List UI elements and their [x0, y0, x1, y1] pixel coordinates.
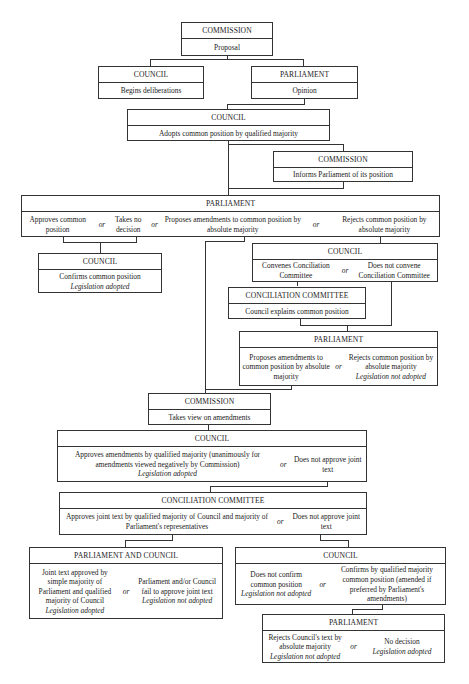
- node-parliament-second: PARLIAMENT Approves common position or T…: [21, 195, 440, 237]
- option-does-not-convene: Does not convene Conciliation Committee: [351, 261, 437, 280]
- result-not-adopted: Legislation not adopted: [238, 589, 314, 599]
- or-label: or: [305, 220, 328, 230]
- option-approves-amendments: Approves amendments by qualified majorit…: [75, 450, 260, 469]
- result-not-adopted: Legislation not adopted: [134, 596, 220, 606]
- node-title: PARLIAMENT: [240, 332, 437, 348]
- node-title: PARLIAMENT: [252, 67, 357, 83]
- node-body: Informs Parliament of its position: [274, 168, 412, 182]
- node-conciliation-joint: CONCILIATION COMMITTEE Approves joint te…: [59, 492, 367, 535]
- option-convenes: Convenes Conciliation Committee: [253, 261, 339, 280]
- option-does-not-confirm: Does not confirm common position: [250, 570, 302, 589]
- node-title: COUNCIL: [99, 67, 203, 83]
- or-label: or: [274, 517, 287, 527]
- node-title: COUNCIL: [58, 431, 366, 447]
- node-parliament-final: PARLIAMENT Rejects Council's text by abs…: [262, 614, 445, 663]
- option-does-not-approve: Does not approve joint text: [290, 455, 366, 474]
- option-proposes-amendments: Proposes amendments to common position b…: [161, 215, 305, 234]
- option-rejects-text: Rejects Council's text by absolute major…: [268, 633, 341, 652]
- node-council-confirms: COUNCIL Confirms common position Legisla…: [38, 253, 162, 293]
- node-body: Proposal: [182, 39, 272, 56]
- node-title: COMMISSION: [274, 152, 412, 168]
- node-title: COUNCIL: [253, 244, 437, 260]
- result-adopted: Legislation adopted: [60, 469, 275, 479]
- result-not-adopted: Legislation not adopted: [347, 372, 435, 382]
- or-label: or: [347, 642, 360, 652]
- option-no-decision: Takes no decision: [108, 215, 148, 234]
- node-title: COUNCIL: [39, 254, 161, 270]
- or-label: or: [339, 266, 352, 276]
- node-commission-view: COMMISSION Takes view on amendments: [148, 393, 271, 425]
- node-title: PARLIAMENT AND COUNCIL: [30, 548, 222, 564]
- option-no-decision: No decision: [384, 637, 420, 646]
- node-title: COUNCIL: [236, 548, 445, 564]
- result-adopted: Legislation adopted: [362, 647, 442, 657]
- node-title: COMMISSION: [182, 23, 272, 39]
- or-label: or: [316, 580, 329, 590]
- option-rejects: Rejects common position by absolute majo…: [327, 215, 441, 234]
- option-rejects: Rejects common position by absolute majo…: [349, 353, 433, 372]
- node-body: Confirms common position: [59, 272, 140, 282]
- or-label: or: [148, 220, 161, 230]
- option-fail-to-approve: Parliament and/or Council fail to approv…: [138, 577, 216, 596]
- result-adopted: Legislation adopted: [32, 606, 118, 616]
- or-label: or: [96, 220, 109, 230]
- result-not-adopted: Legislation not adopted: [265, 652, 345, 662]
- or-label: or: [332, 362, 345, 372]
- result-adopted: Legislation adopted: [71, 282, 130, 292]
- option-proposes-amendments: Proposes amendments to common position b…: [240, 353, 332, 382]
- node-council-final: COUNCIL Does not confirm common position…: [235, 547, 446, 605]
- node-conciliation-explains: CONCILIATION COMMITTEE Council explains …: [228, 287, 366, 319]
- option-approves-joint: Approves joint text by qualified majorit…: [60, 512, 274, 531]
- node-commission-proposal: COMMISSION Proposal: [181, 22, 273, 56]
- node-council-convenes: COUNCIL Convenes Conciliation Committee …: [252, 243, 438, 282]
- node-body: Takes view on amendments: [149, 410, 270, 425]
- option-confirms: Confirms by qualified majority common po…: [329, 565, 445, 603]
- or-label: or: [120, 587, 133, 597]
- node-council-adopts: COUNCIL Adopts common position by qualif…: [127, 109, 330, 141]
- node-body: Council explains common position: [229, 304, 365, 319]
- node-commission-informs: COMMISSION Informs Parliament of its pos…: [273, 151, 413, 182]
- node-parliament-and-council: PARLIAMENT AND COUNCIL Joint text approv…: [29, 547, 223, 619]
- node-body: Opinion: [252, 83, 357, 99]
- node-title: COUNCIL: [128, 110, 329, 126]
- node-title: CONCILIATION COMMITTEE: [229, 288, 365, 304]
- node-title: COMMISSION: [149, 394, 270, 410]
- node-parliament-opinion: PARLIAMENT Opinion: [251, 66, 358, 99]
- option-joint-approved: Joint text approved by simple majority o…: [39, 568, 112, 606]
- node-council-amendments: COUNCIL Approves amendments by qualified…: [57, 430, 367, 482]
- node-parliament-third: PARLIAMENT Proposes amendments to common…: [239, 331, 438, 386]
- node-body: Adopts common position by qualified majo…: [128, 126, 329, 141]
- node-body: Begins deliberations: [99, 83, 203, 99]
- node-title: CONCILIATION COMMITTEE: [60, 493, 366, 509]
- option-approves: Approves common position: [20, 215, 96, 234]
- option-does-not-approve: Does not approve joint text: [287, 512, 366, 531]
- or-label: or: [277, 460, 290, 470]
- node-title: PARLIAMENT: [263, 615, 444, 631]
- node-council-begins: COUNCIL Begins deliberations: [98, 66, 204, 99]
- node-title: PARLIAMENT: [22, 196, 439, 212]
